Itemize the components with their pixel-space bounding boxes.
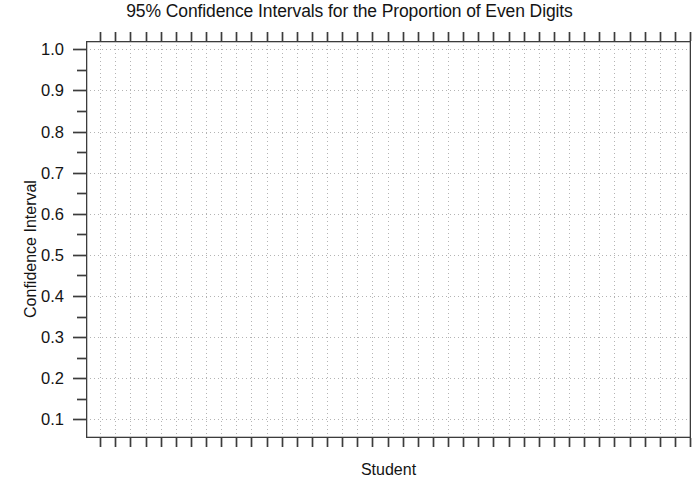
axis-ticks bbox=[86, 41, 691, 438]
plot-area bbox=[86, 41, 691, 438]
y-tick-label: 0.9 bbox=[20, 82, 64, 99]
y-tick-label: 0.7 bbox=[20, 165, 64, 182]
y-tick-label: 0.5 bbox=[20, 247, 64, 264]
y-tick-label: 0.3 bbox=[20, 329, 64, 346]
y-tick-label: 0.4 bbox=[20, 288, 64, 305]
chart-figure: 95% Confidence Intervals for the Proport… bbox=[0, 0, 699, 492]
y-tick-label: 1.0 bbox=[20, 41, 64, 58]
y-tick-label: 0.2 bbox=[20, 370, 64, 387]
y-tick-label: 0.1 bbox=[20, 411, 64, 428]
y-tick-label: 0.6 bbox=[20, 206, 64, 223]
x-axis-title: Student bbox=[86, 461, 691, 479]
y-tick-label: 0.8 bbox=[20, 124, 64, 141]
chart-title: 95% Confidence Intervals for the Proport… bbox=[0, 1, 699, 22]
y-axis-tick-labels: 0.10.20.30.40.50.60.70.80.91.0 bbox=[20, 0, 64, 492]
